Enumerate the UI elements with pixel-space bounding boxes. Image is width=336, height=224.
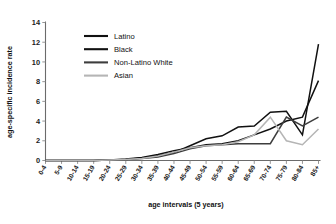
legend-label-black: Black <box>114 45 133 54</box>
x-tick-label: 70-74 <box>258 164 273 182</box>
x-tick-label: 10-14 <box>65 164 80 182</box>
y-tick-label: 8 <box>36 77 40 86</box>
series-line-black <box>46 81 319 161</box>
x-tick-label: 45-49 <box>178 164 193 182</box>
legend-label-latino: Latino <box>114 32 135 41</box>
legend-label-non-latino-white: Non-Latino White <box>114 58 173 67</box>
y-tick-label: 14 <box>32 18 41 27</box>
x-tick-label: 25-29 <box>113 164 128 182</box>
x-tick-label: 65-69 <box>242 164 257 182</box>
y-tick-label: 10 <box>32 58 40 67</box>
x-tick-label: 85+ <box>309 164 321 177</box>
y-axis-title: age-specific incidence rate <box>5 46 14 138</box>
legend-label-asian: Asian <box>114 71 133 80</box>
y-tick-label: 2 <box>36 136 40 145</box>
y-tick-label: 4 <box>36 117 41 126</box>
x-tick-label: 80-84 <box>290 164 305 182</box>
x-tick-label: 55-59 <box>210 164 225 182</box>
x-tick-label: 5-9 <box>53 164 64 176</box>
chart-legend: LatinoBlackNon-Latino WhiteAsian <box>84 32 173 81</box>
series-line-asian <box>46 117 319 160</box>
y-tick-label: 12 <box>32 38 40 47</box>
x-tick-label: 15-19 <box>81 164 96 182</box>
y-tick-label: 0 <box>36 156 40 165</box>
series-line-non-latino-white <box>46 117 319 160</box>
x-tick-label: 0-4 <box>37 164 48 176</box>
x-tick-label: 75-79 <box>274 164 289 182</box>
x-tick-label: 30-34 <box>129 164 144 182</box>
chart-figure: 02468101214 0-45-910-1415-1920-2425-2930… <box>0 0 336 224</box>
x-tick-label: 35-39 <box>145 164 160 182</box>
x-tick-label: 50-54 <box>194 164 209 182</box>
y-axis: 02468101214 <box>32 18 46 165</box>
x-tick-label: 60-64 <box>226 164 241 182</box>
x-tick-label: 20-24 <box>97 164 112 182</box>
y-tick-label: 6 <box>36 97 40 106</box>
x-axis-title: age intervals (5 years) <box>148 200 224 209</box>
x-tick-label: 40-44 <box>162 164 177 182</box>
line-chart: 02468101214 0-45-910-1415-1920-2425-2930… <box>0 0 336 224</box>
x-axis: 0-45-910-1415-1920-2425-2930-3435-3940-4… <box>37 161 321 183</box>
